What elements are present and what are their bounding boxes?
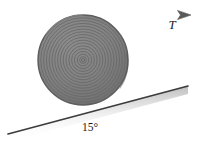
incline-angle-label: 15° <box>82 121 99 133</box>
spool-disc <box>38 15 128 105</box>
physics-diagram-svg: T 15° <box>0 0 200 147</box>
tension-label: T <box>168 17 176 32</box>
physics-figure-canvas: T 15° <box>0 0 200 147</box>
